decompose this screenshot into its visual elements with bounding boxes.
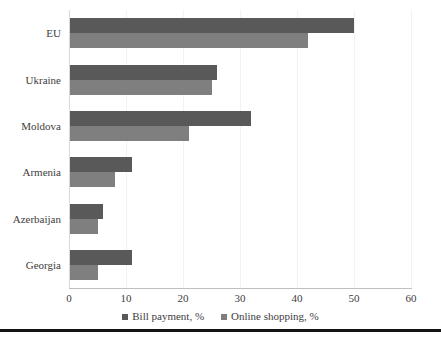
bar bbox=[69, 18, 354, 33]
x-tick-label: 60 bbox=[396, 292, 426, 305]
bar bbox=[69, 33, 308, 48]
bar bbox=[69, 80, 212, 95]
legend-item[interactable]: Online shopping, % bbox=[221, 310, 319, 323]
legend-item[interactable]: Bill payment, % bbox=[122, 310, 204, 323]
bar bbox=[69, 250, 132, 265]
bar bbox=[69, 126, 189, 141]
bar-group: Georgia bbox=[69, 250, 411, 280]
category-label: EU bbox=[0, 27, 61, 39]
gridline-20 bbox=[183, 10, 184, 288]
bar bbox=[69, 265, 98, 280]
bar bbox=[69, 111, 251, 126]
legend-swatch-icon bbox=[122, 314, 128, 320]
bar-group: Moldova bbox=[69, 111, 411, 141]
gridline-50 bbox=[354, 10, 355, 288]
x-tick-label: 30 bbox=[225, 292, 255, 305]
x-tick-label: 0 bbox=[54, 292, 84, 305]
x-tick-label: 20 bbox=[168, 292, 198, 305]
plot-area: EUUkraineMoldovaArmeniaAzerbaijanGeorgia bbox=[69, 10, 411, 288]
legend-swatch-icon bbox=[221, 314, 227, 320]
gridline-10 bbox=[126, 10, 127, 288]
bar-group: Armenia bbox=[69, 157, 411, 187]
bar bbox=[69, 157, 132, 172]
bar bbox=[69, 204, 103, 219]
bottom-divider bbox=[0, 329, 441, 332]
legend-label: Bill payment, % bbox=[132, 310, 204, 323]
gridline-40 bbox=[297, 10, 298, 288]
category-label: Georgia bbox=[0, 259, 61, 271]
x-tick-label: 50 bbox=[339, 292, 369, 305]
category-label: Moldova bbox=[0, 120, 61, 132]
category-label: Armenia bbox=[0, 166, 61, 178]
gridline-60 bbox=[411, 10, 412, 288]
legend-label: Online shopping, % bbox=[231, 310, 319, 323]
gridline-30 bbox=[240, 10, 241, 288]
chart-legend: Bill payment, %Online shopping, % bbox=[0, 310, 441, 323]
x-tick-label: 40 bbox=[282, 292, 312, 305]
x-tick-label: 10 bbox=[111, 292, 141, 305]
bar bbox=[69, 172, 115, 187]
category-axis-line bbox=[69, 288, 412, 289]
bar-group: Ukraine bbox=[69, 65, 411, 95]
bar-chart: EUUkraineMoldovaArmeniaAzerbaijanGeorgia… bbox=[0, 0, 441, 341]
bar-group: Azerbaijan bbox=[69, 204, 411, 234]
bar-group: EU bbox=[69, 18, 411, 48]
bar bbox=[69, 65, 217, 80]
category-label: Ukraine bbox=[0, 74, 61, 86]
bar bbox=[69, 219, 98, 234]
category-label: Azerbaijan bbox=[0, 213, 61, 225]
value-axis-line bbox=[69, 10, 70, 289]
